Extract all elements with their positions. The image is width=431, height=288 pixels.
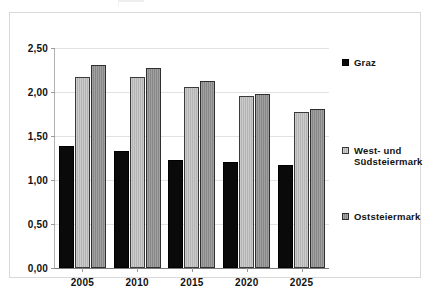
bar-2005-series-1[interactable] [59, 146, 74, 268]
x-axis-label-2010: 2010 [110, 277, 165, 288]
chart-frame: 0,000,501,001,502,002,502005201020152020… [9, 12, 421, 278]
legend-entry-2[interactable]: West- und Südsteiermark [342, 145, 423, 167]
plot-area: 0,000,501,001,502,002,502005201020152020… [54, 48, 329, 269]
bar-group-2025: 2025 [274, 48, 329, 268]
bar-2010-series-2[interactable] [130, 77, 145, 268]
bar-2010-series-3[interactable] [146, 68, 161, 268]
legend-swatch-icon [342, 213, 349, 220]
scan-artifact [118, 0, 144, 7]
bar-2020-series-2[interactable] [239, 96, 254, 268]
bar-group-2010: 2010 [110, 48, 165, 268]
legend-entry-1[interactable]: Graz [342, 57, 376, 68]
bar-group-2015: 2015 [165, 48, 220, 268]
x-axis-tick [247, 268, 248, 272]
y-axis-label: 2,50 [28, 43, 48, 54]
y-axis-label: 0,50 [28, 219, 48, 230]
y-axis-label: 2,00 [28, 87, 48, 98]
legend-label: Oststeiermark [354, 211, 421, 222]
legend-swatch-icon [342, 59, 349, 66]
x-axis-tick [192, 268, 193, 272]
x-axis-label-2025: 2025 [274, 277, 329, 288]
bar-group-2020: 2020 [219, 48, 274, 268]
bar-2025-series-3[interactable] [310, 109, 325, 268]
legend-entry-3[interactable]: Oststeiermark [342, 211, 421, 222]
x-axis-tick [82, 268, 83, 272]
x-axis-tick [137, 268, 138, 272]
bar-2015-series-1[interactable] [168, 160, 183, 268]
y-axis-label: 0,00 [28, 263, 48, 274]
bar-2005-series-3[interactable] [91, 65, 106, 268]
chart-figure: 0,000,501,001,502,002,502005201020152020… [0, 0, 431, 288]
y-axis-label: 1,50 [28, 131, 48, 142]
y-axis-label: 1,00 [28, 175, 48, 186]
x-axis-label-2015: 2015 [165, 277, 220, 288]
x-axis-tick [302, 268, 303, 272]
bar-2025-series-1[interactable] [278, 165, 293, 268]
bar-2020-series-3[interactable] [255, 94, 270, 268]
bar-group-2005: 2005 [55, 48, 110, 268]
chart-legend: GrazWest- und SüdsteiermarkOststeiermark [342, 48, 431, 269]
x-axis-label-2020: 2020 [219, 277, 274, 288]
legend-label: West- und Südsteiermark [354, 145, 423, 167]
legend-label: Graz [354, 57, 376, 68]
bar-2020-series-1[interactable] [223, 162, 238, 268]
y-axis-tick [51, 268, 55, 269]
legend-swatch-icon [342, 147, 349, 154]
x-axis-label-2005: 2005 [55, 277, 110, 288]
bar-2010-series-1[interactable] [114, 151, 129, 268]
bar-2025-series-2[interactable] [294, 112, 309, 268]
bar-2015-series-3[interactable] [200, 81, 215, 268]
bar-2015-series-2[interactable] [184, 87, 199, 268]
bar-2005-series-2[interactable] [75, 77, 90, 268]
